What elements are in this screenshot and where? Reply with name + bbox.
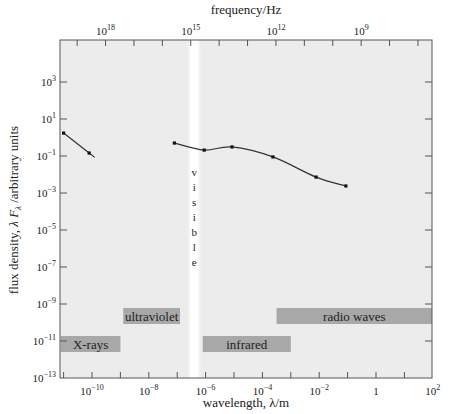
visible-letter: b <box>191 226 197 238</box>
x-tick-label: 10−8 <box>139 383 159 397</box>
y-tick-label: 10−11 <box>33 333 56 347</box>
visible-letter: v <box>191 166 197 178</box>
band-x-rays: X-rays <box>61 336 121 352</box>
y-tick-label: 10−9 <box>36 296 56 310</box>
svg-text:ultraviolet: ultraviolet <box>125 309 179 324</box>
band-ultraviolet: ultraviolet <box>123 308 180 324</box>
y-tick-label: 103 <box>41 74 56 88</box>
y-tick-label: 10−7 <box>36 259 56 273</box>
data-point <box>314 175 317 178</box>
x-tick-label: 10−10 <box>80 383 104 397</box>
y-tick-label: 10−3 <box>36 185 56 199</box>
data-point <box>344 184 347 187</box>
visible-letter: l <box>193 241 196 253</box>
x-axis-label: wavelength, λ/m <box>203 395 289 410</box>
visible-letter: e <box>192 256 197 268</box>
data-point <box>88 151 91 154</box>
plot-area <box>60 40 432 378</box>
data-point <box>173 141 176 144</box>
visible-strip: visible <box>186 40 202 378</box>
data-point <box>271 155 274 158</box>
x-tick-label: 10−2 <box>309 383 329 397</box>
plot-background <box>60 40 432 378</box>
y-tick-label: 101 <box>41 111 56 125</box>
visible-letter: s <box>192 196 196 208</box>
x-tick-label: 1 <box>373 385 379 397</box>
svg-text:radio waves: radio waves <box>323 309 385 324</box>
y-tick-label: 10−13 <box>32 370 56 384</box>
svg-text:infrared: infrared <box>226 337 268 352</box>
y-tick-label: 10−1 <box>36 148 56 162</box>
visible-letter: i <box>193 181 196 193</box>
data-point <box>230 145 233 148</box>
spectrum-chart: X-raysultravioletinfraredradio waves vis… <box>0 0 451 414</box>
y-axis-label: flux density, λ Fλ /arbitrary units <box>6 126 23 294</box>
top-axis-label: frequency/Hz <box>211 2 282 17</box>
y-tick-label: 10−5 <box>36 222 56 236</box>
visible-letter: i <box>193 211 196 223</box>
svg-text:X-rays: X-rays <box>73 337 108 352</box>
data-point <box>203 148 206 151</box>
band-radio-waves: radio waves <box>277 308 432 324</box>
top-tick-label: 1015 <box>181 23 200 37</box>
band-infrared: infrared <box>203 336 291 352</box>
x-tick-label: 102 <box>425 383 440 397</box>
data-point <box>62 131 65 134</box>
top-tick-label: 1018 <box>96 23 115 37</box>
top-tick-label: 109 <box>354 23 369 37</box>
top-tick-label: 1012 <box>266 23 285 37</box>
